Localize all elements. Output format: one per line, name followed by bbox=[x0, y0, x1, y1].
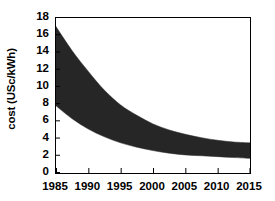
axis-tick-marks bbox=[56, 18, 250, 173]
x-tick-label: 1985 bbox=[42, 181, 68, 193]
x-tick-label: 2000 bbox=[139, 181, 165, 193]
x-tick-label: 2015 bbox=[236, 181, 262, 193]
x-tick-label: 2010 bbox=[204, 181, 230, 193]
cost-projection-chart: cost (USc/kWh) 024681012141618 198519901… bbox=[0, 0, 275, 201]
x-tick-label: 1995 bbox=[107, 181, 133, 193]
x-tick-label: 2005 bbox=[172, 181, 198, 193]
plot-area bbox=[55, 17, 251, 174]
x-tick-label: 1990 bbox=[75, 181, 101, 193]
